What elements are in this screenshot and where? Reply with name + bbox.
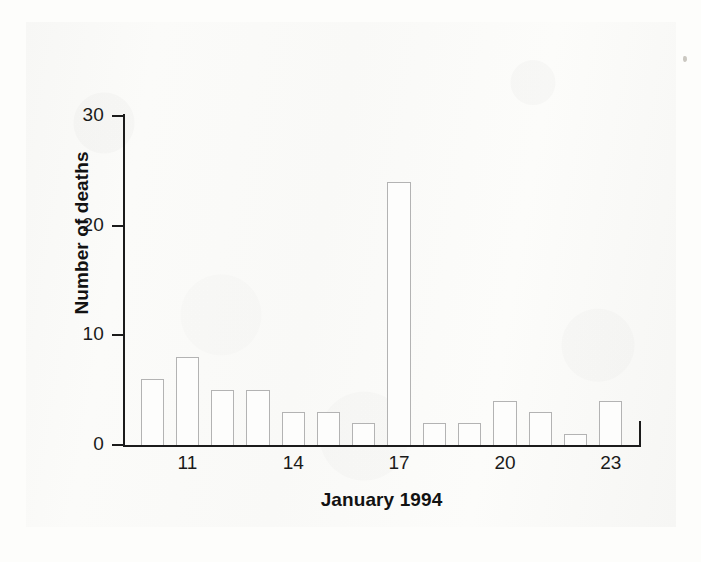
x-axis-tick-label: 17 [369,452,429,474]
x-axis-tick-label: 23 [581,452,641,474]
figure-page: 0102030 Number of deaths 1114172023 Janu… [0,0,701,562]
x-axis-tick-label: 11 [157,452,217,474]
x-axis-title: January 1994 [124,489,639,511]
x-axis-tick-label: 14 [263,452,323,474]
bar-chart: 0102030 Number of deaths 1114172023 Janu… [0,0,701,562]
x-axis-tick-labels: 1114172023 [0,0,701,562]
x-axis-tick-label: 20 [475,452,535,474]
